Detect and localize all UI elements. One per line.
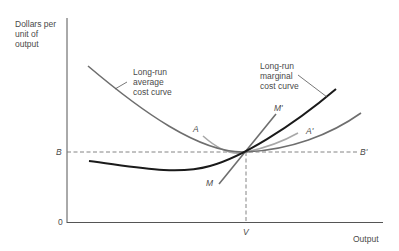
lrmc-curve: [89, 89, 336, 170]
lrmc-label: Long-run marginal cost curve: [260, 61, 299, 91]
label-b-prime: B': [360, 147, 367, 157]
aa-curve: [203, 133, 298, 153]
lrac-curve: [88, 66, 361, 152]
mm-line: [219, 114, 276, 184]
y-axis-label: Dollars per unit of output: [15, 19, 56, 49]
label-v: V: [243, 227, 249, 237]
label-m-prime: M': [274, 103, 283, 113]
label-a: A: [193, 124, 199, 134]
label-a-prime: A': [306, 126, 313, 136]
lrac-label: Long-run average cost curve: [133, 67, 172, 97]
lrac-leader: [115, 82, 127, 89]
x-axis-label: Output: [353, 234, 379, 244]
label-b: B: [56, 147, 62, 157]
lrmc-leader: [298, 75, 327, 97]
origin-label: 0: [58, 217, 63, 227]
cost-curve-diagram: [0, 0, 399, 251]
label-m: M: [206, 178, 213, 188]
